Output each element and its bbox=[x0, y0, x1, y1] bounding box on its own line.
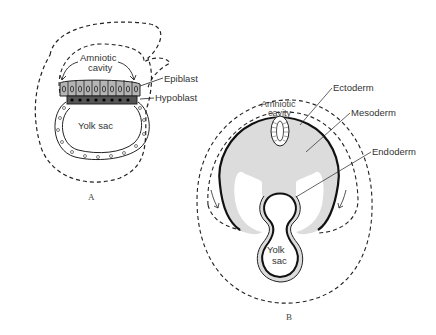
panel-b-caption: B bbox=[286, 312, 292, 322]
hypoblast-leader bbox=[140, 98, 154, 99]
ectoderm-label: Ectoderm bbox=[333, 82, 374, 93]
panel-b-yolk-label-1: Yolk bbox=[267, 244, 285, 255]
hypoblast-label: Hypoblast bbox=[155, 92, 198, 103]
panel-b-yolk-label-2: sac bbox=[272, 255, 287, 266]
epiblast-label: Epiblast bbox=[164, 73, 198, 84]
neural-tube bbox=[271, 116, 289, 146]
panel-b-amniotic-label-2: cavity bbox=[268, 108, 292, 118]
panel-a: Amniotic cavity Epiblast Hypoblast Yolk … bbox=[35, 22, 198, 202]
panel-b: Amniotic cavity Ectoderm Mesoderm Endode… bbox=[197, 82, 416, 322]
ectoderm-leader bbox=[300, 88, 332, 125]
hypoblast-layer bbox=[67, 96, 137, 104]
panel-a-yolk-sac-label: Yolk sac bbox=[78, 120, 113, 131]
panel-a-amniotic-label-2: cavity bbox=[88, 62, 113, 73]
embryo-diagram: Amniotic cavity Epiblast Hypoblast Yolk … bbox=[0, 0, 436, 335]
epiblast-layer bbox=[60, 80, 140, 96]
panel-a-caption: A bbox=[88, 192, 95, 202]
mesoderm-label: Mesoderm bbox=[351, 107, 396, 118]
endoderm-label: Endoderm bbox=[372, 146, 416, 157]
